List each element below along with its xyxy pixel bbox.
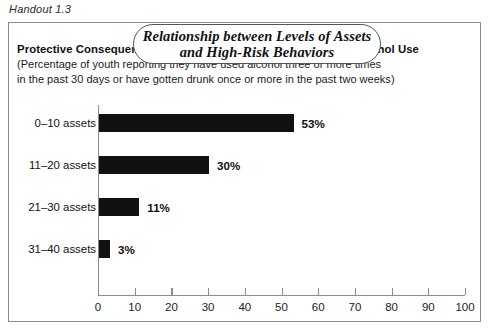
x-axis-tick-label: 40 xyxy=(238,301,251,313)
bar xyxy=(99,156,209,174)
bar-category-label: 31–40 assets xyxy=(0,243,96,255)
bar xyxy=(99,114,294,132)
bar-value-label: 53% xyxy=(302,117,325,130)
bar xyxy=(99,240,110,258)
bar-category-label: 11–20 assets xyxy=(0,159,96,171)
title-banner: Relationship between Levels of Assets an… xyxy=(133,24,381,64)
bar-value-label: 11% xyxy=(147,201,170,214)
x-axis-tick-label: 20 xyxy=(165,301,178,313)
x-axis-tick xyxy=(245,288,246,295)
x-axis-tick xyxy=(318,288,319,295)
x-axis-tick xyxy=(392,288,393,295)
x-axis-tick-label: 80 xyxy=(385,301,398,313)
x-axis-tick-label: 0 xyxy=(95,301,101,313)
x-axis-tick-label: 60 xyxy=(312,301,325,313)
x-axis-tick-label: 100 xyxy=(455,301,474,313)
x-axis-tick xyxy=(208,288,209,295)
x-axis-tick xyxy=(282,288,283,295)
bar-chart: 0–10 assets11–20 assets21–30 assets31–40… xyxy=(9,97,482,323)
chart-subtitle-line-2: in the past 30 days or have gotten drunk… xyxy=(17,72,467,87)
bar-category-label: 0–10 assets xyxy=(0,117,96,129)
bar-category-label: 21–30 assets xyxy=(0,201,96,213)
title-line-1: Relationship between Levels of Assets xyxy=(143,28,372,44)
bar xyxy=(99,198,139,216)
x-axis-tick xyxy=(135,288,136,295)
handout-panel: Relationship between Levels of Assets an… xyxy=(8,22,481,322)
x-axis-tick-label: 10 xyxy=(128,301,141,313)
x-axis-tick xyxy=(465,288,466,295)
x-axis-tick xyxy=(355,288,356,295)
handout-label: Handout 1.3 xyxy=(9,3,71,15)
x-axis-tick-label: 30 xyxy=(202,301,215,313)
plot-area: 010203040506070809010053%30%11%3% xyxy=(98,105,465,296)
x-axis-tick-label: 70 xyxy=(348,301,361,313)
x-axis-tick-label: 90 xyxy=(422,301,435,313)
bar-value-label: 3% xyxy=(118,243,135,256)
category-label-column: 0–10 assets11–20 assets21–30 assets31–40… xyxy=(9,105,96,296)
title-line-2: and High-Risk Behaviors xyxy=(180,44,335,60)
x-axis-tick-label: 50 xyxy=(275,301,288,313)
bar-value-label: 30% xyxy=(217,159,240,172)
x-axis-tick xyxy=(428,288,429,295)
x-axis-tick xyxy=(98,288,99,295)
x-axis-tick xyxy=(171,288,172,295)
